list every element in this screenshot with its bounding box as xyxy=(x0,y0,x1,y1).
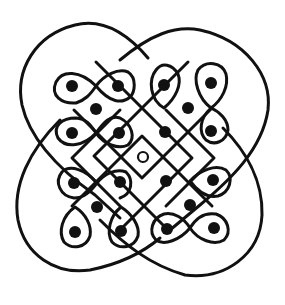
center-hollow-dot xyxy=(138,152,148,162)
dot xyxy=(208,222,220,234)
dot xyxy=(161,223,173,235)
kolam-diagram xyxy=(0,0,285,305)
dot xyxy=(113,127,125,139)
dot xyxy=(66,80,78,92)
dot xyxy=(90,103,102,115)
outer-loop-top-right xyxy=(120,29,268,230)
dot xyxy=(158,79,170,91)
dot xyxy=(159,126,171,138)
dot xyxy=(91,201,103,213)
diag-grid-5 xyxy=(74,108,212,178)
dot xyxy=(184,199,196,211)
dot xyxy=(68,177,80,189)
dot xyxy=(114,176,126,188)
dot xyxy=(205,125,217,137)
dot xyxy=(160,175,172,187)
line-paths xyxy=(17,23,269,275)
dot xyxy=(207,174,219,186)
dot xyxy=(66,127,78,139)
dot xyxy=(115,225,127,237)
dot xyxy=(112,80,124,92)
dot xyxy=(182,102,194,114)
diag-grid-6 xyxy=(72,136,212,206)
dot xyxy=(69,226,81,238)
dot xyxy=(205,77,217,89)
outer-loop-bottom-right xyxy=(100,128,262,276)
